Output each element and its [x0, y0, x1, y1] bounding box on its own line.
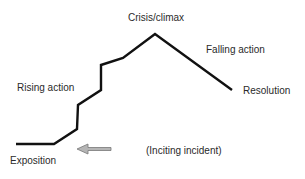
falling-action-label: Falling action: [206, 44, 265, 56]
resolution-label: Resolution: [243, 85, 290, 97]
crisis-climax-label: Crisis/climax: [128, 12, 184, 24]
exposition-label: Exposition: [10, 155, 56, 167]
inciting-incident-arrow-icon: [77, 144, 111, 154]
rising-action-label: Rising action: [17, 82, 74, 94]
inciting-incident-label: (Inciting incident): [146, 145, 222, 157]
